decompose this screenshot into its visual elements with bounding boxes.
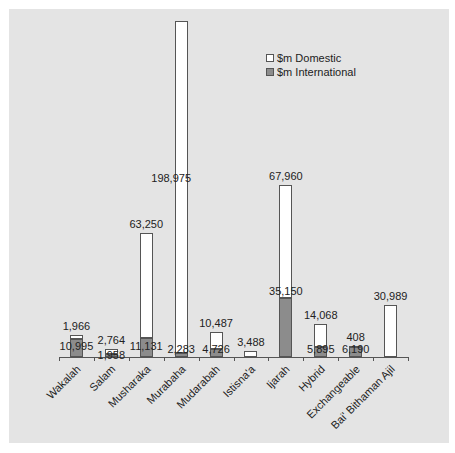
data-label-international: 35,150 <box>269 285 303 297</box>
bar-segment-domestic <box>244 351 257 357</box>
bar-segment-domestic <box>279 185 292 298</box>
x-axis-tick <box>338 357 339 361</box>
x-axis-tick <box>408 357 409 361</box>
legend-item-international: $m International <box>266 65 356 79</box>
data-label-international: 11,131 <box>130 340 163 352</box>
bar-segment-international <box>279 298 292 357</box>
data-label-domestic: 14,068 <box>304 309 338 321</box>
domestic-swatch-icon <box>266 54 274 62</box>
data-label-domestic: 3,488 <box>237 336 265 348</box>
bar-segment-domestic <box>140 233 153 339</box>
legend-label-international: $m International <box>277 66 356 78</box>
data-label-international: 5,895 <box>307 343 335 355</box>
data-label-domestic: 1,966 <box>63 320 91 332</box>
bar-segment-domestic <box>175 21 188 353</box>
data-label-international: 4,726 <box>202 343 230 355</box>
data-label-domestic: 408 <box>346 331 364 343</box>
data-label-domestic: 10,487 <box>199 317 233 329</box>
data-label-domestic: 30,989 <box>374 290 408 302</box>
legend-item-domestic: $m Domestic <box>266 51 356 65</box>
x-axis-tick <box>234 357 235 361</box>
data-label-domestic: 2,764 <box>98 334 126 346</box>
data-label-international: 1,958 <box>98 349 126 361</box>
data-label-international: 6,190 <box>342 343 370 355</box>
data-label-international: 2,283 <box>167 343 195 355</box>
x-axis-tick <box>373 357 374 361</box>
bar-9 <box>384 305 397 357</box>
data-label-international: 10,995 <box>60 340 94 352</box>
bar-3 <box>175 21 188 357</box>
international-swatch-icon <box>266 68 274 76</box>
data-label-domestic: 198,975 <box>151 172 191 184</box>
x-axis-tick <box>164 357 165 361</box>
data-label-domestic: 67,960 <box>269 170 303 182</box>
bar-6 <box>279 185 292 357</box>
bar-5 <box>244 351 257 357</box>
legend-label-domestic: $m Domestic <box>277 52 341 64</box>
x-axis-tick <box>129 357 130 361</box>
x-axis-tick <box>59 357 60 361</box>
legend: $m Domestic $m International <box>266 51 356 79</box>
x-axis-tick <box>268 357 269 361</box>
x-axis-tick <box>94 357 95 361</box>
bar-2 <box>140 233 153 357</box>
x-axis-tick <box>303 357 304 361</box>
bar-segment-domestic <box>384 305 397 357</box>
x-axis-tick <box>199 357 200 361</box>
data-label-domestic: 63,250 <box>129 218 163 230</box>
